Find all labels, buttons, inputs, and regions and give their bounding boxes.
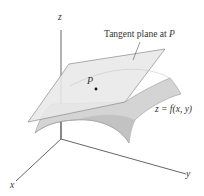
x-axis-label: x [10, 181, 14, 191]
y-axis-label: y [186, 170, 190, 180]
tangent-plane-diagram: Tangent plane at P z = f(x, y) P z x y [0, 0, 204, 196]
surface-label: z = f(x, y) [155, 105, 192, 115]
x-axis [16, 139, 61, 181]
tangent-plane-var: P [169, 29, 175, 39]
point-p [95, 88, 98, 91]
tangent-plane-text: Tangent plane at [104, 29, 169, 39]
y-axis [61, 139, 186, 174]
point-label: P [87, 76, 93, 86]
tangent-plane-label: Tangent plane at P [104, 30, 175, 40]
z-axis-label: z [58, 13, 62, 23]
